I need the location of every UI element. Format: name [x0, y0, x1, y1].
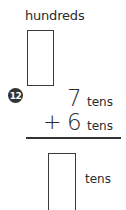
addend-1-value: 7 [67, 87, 82, 110]
tens-answer-label: tens [85, 172, 111, 186]
addend-2-unit: tens [87, 119, 113, 133]
addend-2-value: 6 [67, 111, 82, 134]
sum-line [26, 137, 121, 139]
hundreds-label: hundreds [25, 8, 84, 23]
tens-answer-box[interactable] [48, 153, 76, 210]
plus-sign: + [43, 111, 61, 133]
addend-1-unit: tens [87, 95, 113, 109]
problem-number-badge: 12 [8, 88, 23, 103]
hundreds-answer-box[interactable] [27, 30, 54, 86]
